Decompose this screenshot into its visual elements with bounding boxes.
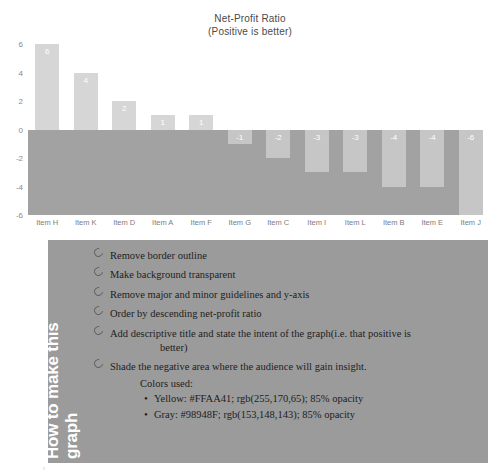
ring-bullet-icon	[92, 266, 105, 279]
y-axis-tick-label: -4	[0, 182, 23, 191]
x-axis-tick-label: Item H	[28, 218, 67, 227]
bar: -4	[382, 130, 406, 187]
ring-bullet-icon	[92, 358, 105, 371]
chart-title: Net-Profit Ratio	[0, 12, 500, 25]
bar-value-label: -4	[420, 133, 444, 142]
bar-value-label: 1	[189, 118, 213, 127]
bar-value-label: -4	[382, 133, 406, 142]
ring-bullet-icon	[92, 246, 105, 259]
x-axis-tick-label: Item G	[221, 218, 260, 227]
bar: -6	[459, 130, 483, 216]
x-axis-tick-label: Item B	[375, 218, 414, 227]
bar-value-label: -2	[266, 133, 290, 142]
list-item-continuation: better)	[110, 341, 484, 355]
x-axis-tick-label: Item L	[336, 218, 375, 227]
list-item-label: Remove border outline	[110, 250, 207, 261]
side-title-line-1: How to make this	[48, 322, 63, 459]
y-axis-tick-label: 2	[0, 97, 23, 106]
ring-bullet-icon	[92, 285, 105, 298]
x-axis-tick-label: Item E	[413, 218, 452, 227]
x-axis-tick-label: Item J	[452, 218, 491, 227]
list-item: Order by descending net-profit ratio	[92, 303, 484, 321]
list-item-label: Remove major and minor guidelines and y-…	[110, 289, 309, 300]
bar: -3	[343, 130, 367, 173]
list-item-label: Add descriptive title and state the inte…	[110, 328, 411, 339]
dot-bullet-icon: •	[144, 407, 148, 423]
list-item: Shade the negative area where the audien…	[92, 356, 484, 374]
x-axis-tick-label: Item F	[182, 218, 221, 227]
colors-used-heading: Colors used:	[92, 376, 484, 392]
bar-value-label: 1	[151, 118, 175, 127]
bar: -2	[266, 130, 290, 159]
x-axis-tick-label: Item C	[259, 218, 298, 227]
color-item-label: Yellow: #FFAA41; rgb(255,170,65); 85% op…	[154, 393, 363, 404]
chart-subtitle: (Positive is better)	[0, 25, 500, 38]
x-axis-tick-label: Item A	[144, 218, 183, 227]
x-axis-tick-label: Item D	[105, 218, 144, 227]
list-item: Make background transparent	[92, 264, 484, 282]
list-item: Remove major and minor guidelines and y-…	[92, 284, 484, 302]
dot-bullet-icon: •	[144, 391, 148, 407]
list-item-label: Order by descending net-profit ratio	[110, 308, 262, 319]
bar: -3	[305, 130, 329, 173]
x-axis-labels: Item HItem KItem DItem AItem FItem GItem…	[28, 218, 490, 232]
color-item-label: Gray: #98948F; rgb(153,148,143); 85% opa…	[154, 409, 355, 420]
scan-artifact-mark: r	[43, 465, 61, 472]
bar: 2	[112, 101, 136, 130]
bar: 1	[151, 115, 175, 129]
panel-bullet-list: Remove border outline Make background tr…	[92, 245, 484, 458]
y-axis-tick-label: 4	[0, 68, 23, 77]
list-item: Add descriptive title and state the inte…	[92, 323, 484, 356]
how-to-panel: How to make this graph Remove border out…	[48, 240, 488, 463]
y-axis-tick-label: 0	[0, 125, 23, 134]
y-axis-tick-label: -6	[0, 211, 23, 220]
panel-side-title: How to make this graph	[48, 240, 90, 463]
bar-value-label: -3	[343, 133, 367, 142]
bar-value-label: 2	[112, 104, 136, 113]
bar-value-label: -6	[459, 133, 483, 142]
y-axis-tick-label: 6	[0, 40, 23, 49]
list-item: Remove border outline	[92, 245, 484, 263]
y-axis-tick-label: -2	[0, 154, 23, 163]
bar-value-label: 4	[74, 76, 98, 85]
list-item-label: Shade the negative area where the audien…	[110, 361, 367, 372]
bar: 1	[189, 115, 213, 129]
side-title-line-2: graph	[62, 413, 82, 459]
slide-canvas: Net-Profit Ratio (Positive is better) 64…	[0, 0, 500, 474]
color-item-yellow: • Yellow: #FFAA41; rgb(255,170,65); 85% …	[92, 391, 484, 407]
bar: -1	[228, 130, 252, 144]
list-item-label: Make background transparent	[110, 269, 235, 280]
bar-value-label: -1	[228, 133, 252, 142]
ring-bullet-icon	[92, 324, 105, 337]
bar-series: 64211-1-2-3-3-4-4-6	[28, 44, 490, 215]
plot-area: 6420-2-4-6 64211-1-2-3-3-4-4-6	[28, 44, 490, 215]
x-axis-tick-label: Item I	[298, 218, 337, 227]
x-axis-tick-label: Item K	[67, 218, 106, 227]
bar: -4	[420, 130, 444, 187]
color-item-gray: • Gray: #98948F; rgb(153,148,143); 85% o…	[92, 407, 484, 423]
bar-value-label: 6	[35, 47, 59, 56]
bar: 6	[35, 44, 59, 130]
bar-value-label: -3	[305, 133, 329, 142]
bar: 4	[74, 73, 98, 130]
ring-bullet-icon	[92, 304, 105, 317]
